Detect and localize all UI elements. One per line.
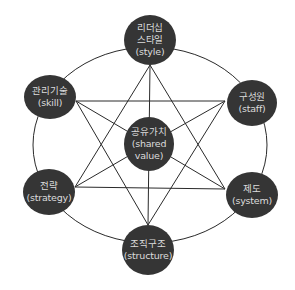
node-ellipse-style — [124, 15, 176, 65]
node-ellipse-structure — [122, 225, 174, 275]
node-ellipse-staff — [227, 80, 277, 126]
node-ellipse-skill — [24, 75, 76, 119]
seven-s-diagram — [0, 0, 295, 290]
node-ellipse-system — [226, 172, 278, 218]
node-ellipses — [23, 15, 278, 275]
node-ellipse-strategy — [23, 169, 75, 215]
node-ellipse-shared-value — [124, 117, 174, 171]
triangle-edge-strategy-system — [75, 187, 225, 189]
